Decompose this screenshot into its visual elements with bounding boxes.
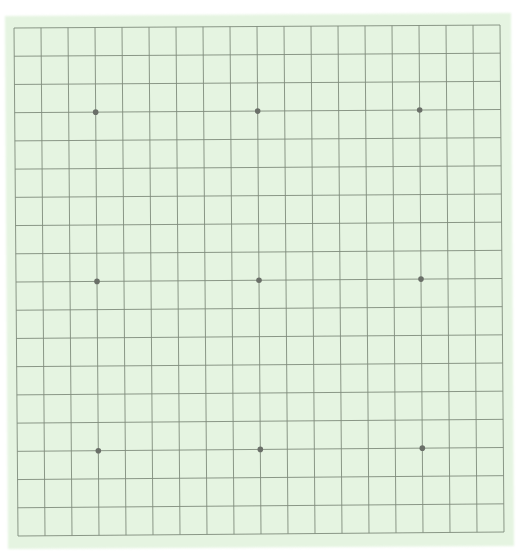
board-intersection[interactable] bbox=[492, 464, 516, 488]
board-intersection[interactable] bbox=[490, 323, 514, 347]
board-intersection[interactable] bbox=[434, 13, 458, 37]
board-intersection[interactable] bbox=[219, 184, 243, 208]
board-intersection[interactable] bbox=[139, 325, 163, 349]
board-intersection[interactable] bbox=[112, 241, 136, 265]
board-intersection[interactable] bbox=[407, 42, 431, 66]
board-intersection[interactable] bbox=[384, 521, 408, 545]
board-intersection[interactable] bbox=[299, 71, 323, 95]
board-intersection[interactable] bbox=[164, 15, 188, 39]
board-intersection[interactable] bbox=[355, 239, 379, 263]
board-intersection[interactable] bbox=[4, 326, 28, 350]
board-intersection[interactable] bbox=[29, 16, 53, 40]
board-intersection[interactable] bbox=[357, 465, 381, 489]
board-intersection[interactable] bbox=[302, 437, 326, 461]
board-intersection[interactable] bbox=[353, 42, 377, 66]
board-intersection[interactable] bbox=[380, 42, 404, 66]
board-intersection[interactable] bbox=[4, 242, 28, 266]
board-intersection[interactable] bbox=[164, 43, 188, 67]
board-intersection[interactable] bbox=[83, 72, 107, 96]
board-intersection[interactable] bbox=[32, 383, 56, 407]
board-intersection[interactable] bbox=[57, 157, 81, 181]
board-intersection[interactable] bbox=[59, 354, 83, 378]
board-intersection[interactable] bbox=[140, 354, 164, 378]
board-intersection[interactable] bbox=[273, 155, 297, 179]
board-intersection[interactable] bbox=[273, 99, 297, 123]
board-intersection[interactable] bbox=[299, 14, 323, 38]
board-intersection[interactable] bbox=[303, 493, 327, 517]
board-intersection[interactable] bbox=[60, 524, 84, 548]
board-intersection[interactable] bbox=[165, 184, 189, 208]
board-intersection[interactable] bbox=[32, 439, 56, 463]
board-intersection[interactable] bbox=[222, 494, 246, 518]
board-intersection[interactable] bbox=[114, 523, 138, 547]
board-intersection[interactable] bbox=[408, 183, 432, 207]
board-intersection[interactable] bbox=[357, 493, 381, 517]
board-intersection[interactable] bbox=[167, 438, 191, 462]
board-intersection[interactable] bbox=[111, 185, 135, 209]
board-intersection[interactable] bbox=[165, 128, 189, 152]
board-intersection[interactable] bbox=[138, 100, 162, 124]
board-intersection[interactable] bbox=[6, 496, 30, 520]
board-intersection[interactable] bbox=[5, 439, 29, 463]
board-intersection[interactable] bbox=[2, 72, 26, 96]
board-intersection[interactable] bbox=[59, 411, 83, 435]
board-intersection[interactable] bbox=[355, 324, 379, 348]
board-intersection[interactable] bbox=[246, 184, 270, 208]
board-intersection[interactable] bbox=[247, 268, 271, 292]
board-intersection[interactable] bbox=[330, 521, 354, 545]
board-intersection[interactable] bbox=[409, 211, 433, 235]
board-intersection[interactable] bbox=[192, 128, 216, 152]
board-intersection[interactable] bbox=[140, 438, 164, 462]
board-intersection[interactable] bbox=[84, 157, 108, 181]
board-intersection[interactable] bbox=[273, 183, 297, 207]
board-intersection[interactable] bbox=[408, 154, 432, 178]
board-intersection[interactable] bbox=[409, 323, 433, 347]
board-intersection[interactable] bbox=[491, 351, 515, 375]
board-intersection[interactable] bbox=[33, 496, 57, 520]
board-intersection[interactable] bbox=[490, 238, 514, 262]
board-intersection[interactable] bbox=[302, 409, 326, 433]
board-intersection[interactable] bbox=[328, 239, 352, 263]
board-intersection[interactable] bbox=[167, 353, 191, 377]
board-intersection[interactable] bbox=[137, 15, 161, 39]
board-intersection[interactable] bbox=[329, 437, 353, 461]
board-intersection[interactable] bbox=[436, 267, 460, 291]
board-intersection[interactable] bbox=[276, 522, 300, 546]
board-intersection[interactable] bbox=[492, 520, 516, 544]
board-intersection[interactable] bbox=[246, 155, 270, 179]
board-intersection[interactable] bbox=[357, 521, 381, 545]
board-intersection[interactable] bbox=[247, 240, 271, 264]
board-intersection[interactable] bbox=[435, 98, 459, 122]
board-intersection[interactable] bbox=[301, 268, 325, 292]
board-intersection[interactable] bbox=[84, 100, 108, 124]
board-intersection[interactable] bbox=[436, 211, 460, 235]
board-intersection[interactable] bbox=[139, 213, 163, 237]
board-intersection[interactable] bbox=[85, 213, 109, 237]
board-intersection[interactable] bbox=[354, 183, 378, 207]
board-intersection[interactable] bbox=[355, 211, 379, 235]
board-intersection[interactable] bbox=[111, 100, 135, 124]
board-intersection[interactable] bbox=[245, 15, 269, 39]
board-intersection[interactable] bbox=[221, 353, 245, 377]
board-intersection[interactable] bbox=[5, 411, 29, 435]
board-intersection[interactable] bbox=[248, 381, 272, 405]
board-intersection[interactable] bbox=[354, 155, 378, 179]
board-intersection[interactable] bbox=[409, 267, 433, 291]
board-intersection[interactable] bbox=[87, 523, 111, 547]
board-intersection[interactable] bbox=[274, 240, 298, 264]
board-intersection[interactable] bbox=[410, 408, 434, 432]
board-intersection[interactable] bbox=[276, 465, 300, 489]
board-intersection[interactable] bbox=[218, 43, 242, 67]
board-intersection[interactable] bbox=[382, 239, 406, 263]
board-intersection[interactable] bbox=[274, 296, 298, 320]
board-intersection[interactable] bbox=[248, 353, 272, 377]
board-intersection[interactable] bbox=[489, 154, 513, 178]
board-intersection[interactable] bbox=[193, 297, 217, 321]
board-intersection[interactable] bbox=[221, 438, 245, 462]
board-intersection[interactable] bbox=[245, 71, 269, 95]
board-intersection[interactable] bbox=[111, 156, 135, 180]
board-intersection[interactable] bbox=[84, 128, 108, 152]
board-intersection[interactable] bbox=[355, 296, 379, 320]
board-intersection[interactable] bbox=[218, 71, 242, 95]
board-intersection[interactable] bbox=[381, 126, 405, 150]
